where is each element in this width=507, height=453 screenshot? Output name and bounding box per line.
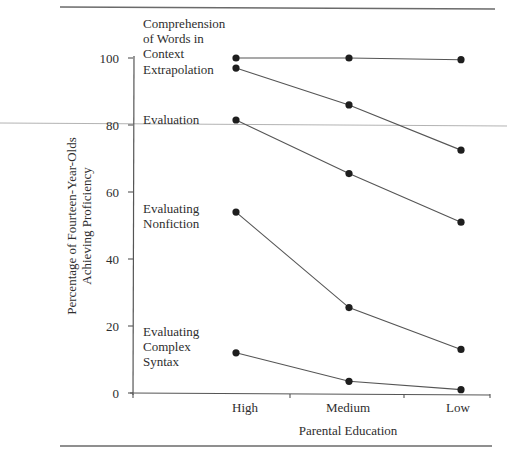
data-point-marker	[345, 170, 352, 177]
data-point-marker	[345, 54, 352, 61]
y-tick-label: 0	[113, 386, 120, 401]
data-point-marker	[232, 54, 239, 61]
data-point-marker	[232, 209, 239, 216]
data-point-marker	[345, 101, 352, 108]
series-extrapolation	[232, 64, 464, 153]
series-label-line: Comprehension	[143, 16, 226, 31]
data-point-marker	[457, 219, 464, 226]
series-label: Comprehensionof Words inContext	[143, 16, 226, 61]
data-point-marker	[457, 346, 464, 353]
y-tick-label: 60	[106, 185, 119, 200]
series-label-line: Evaluation	[143, 112, 200, 127]
y-axis-title-line: Percentage of Fourteen-Year-Olds	[64, 137, 79, 314]
series-label-line: Context	[143, 46, 185, 61]
series-label-line: of Words in	[143, 31, 204, 46]
x-axis: HighMediumLow	[130, 393, 490, 415]
series-label: EvaluatingNonfiction	[143, 201, 200, 231]
line-chart: 020406080100 HighMediumLow Percentage of…	[0, 0, 507, 453]
x-category-label: Medium	[326, 400, 370, 415]
y-tick-label: 20	[106, 319, 119, 334]
series-label-line: Evaluating	[143, 324, 200, 339]
series-labels: Comprehensionof Words inContextExtrapola…	[143, 16, 226, 369]
series-comprehension-of-words-in-context	[232, 54, 464, 63]
series-evaluation	[232, 116, 464, 225]
y-axis-title-line: Achieving Proficiency	[79, 167, 94, 285]
data-point-marker	[457, 147, 464, 154]
data-point-marker	[457, 386, 464, 393]
series-label: Extrapolation	[143, 62, 214, 77]
y-tick-label: 100	[100, 51, 120, 66]
scan-artifact-line	[0, 123, 507, 126]
data-point-marker	[457, 56, 464, 63]
data-point-marker	[345, 304, 352, 311]
x-axis-title: Parental Education	[299, 423, 398, 438]
x-category-label: Low	[446, 400, 470, 415]
y-axis: 020406080100	[100, 51, 135, 401]
series-label-line: Complex	[143, 339, 191, 354]
series-label: Evaluation	[143, 112, 200, 127]
y-tick-label: 80	[106, 118, 119, 133]
data-point-marker	[232, 116, 239, 123]
top-rule	[60, 7, 495, 9]
series-label-line: Syntax	[143, 354, 180, 369]
data-point-marker	[232, 349, 239, 356]
series-label-line: Nonfiction	[143, 216, 200, 231]
chart-canvas: 020406080100 HighMediumLow Percentage of…	[0, 0, 507, 453]
series-group	[232, 54, 464, 393]
x-category-label: High	[232, 400, 259, 415]
data-point-marker	[232, 64, 239, 71]
series-evaluating-complex-syntax	[232, 349, 464, 393]
y-tick-label: 40	[106, 252, 119, 267]
series-evaluating-nonfiction	[232, 209, 464, 354]
series-label-line: Extrapolation	[143, 62, 214, 77]
data-point-marker	[345, 378, 352, 385]
series-label: EvaluatingComplexSyntax	[143, 324, 200, 369]
y-axis-title: Percentage of Fourteen-Year-OldsAchievin…	[64, 137, 94, 314]
series-label-line: Evaluating	[143, 201, 200, 216]
